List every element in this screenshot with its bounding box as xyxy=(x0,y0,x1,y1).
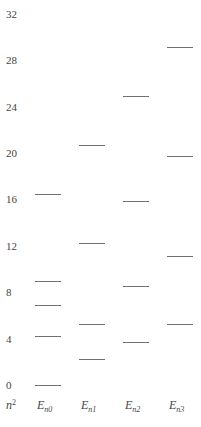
energy-level-line xyxy=(167,47,193,48)
y-tick-label: 4 xyxy=(6,333,28,345)
column-label-n3: En3 xyxy=(169,398,184,414)
energy-level-line xyxy=(167,156,193,157)
y-tick-label: 16 xyxy=(6,193,28,205)
y-tick-label: 0 xyxy=(6,379,28,391)
energy-level-line xyxy=(35,385,61,386)
energy-level-line xyxy=(167,256,193,257)
energy-level-line xyxy=(123,286,149,287)
y-axis-label: n2 xyxy=(6,398,16,413)
energy-level-line xyxy=(79,324,105,325)
energy-level-line xyxy=(167,324,193,325)
column-label-n1: En1 xyxy=(81,398,96,414)
energy-level-line xyxy=(79,243,105,244)
y-tick-label: 20 xyxy=(6,147,28,159)
energy-level-line xyxy=(35,336,61,337)
energy-level-line xyxy=(123,96,149,97)
energy-level-line xyxy=(35,305,61,306)
energy-level-line xyxy=(79,145,105,146)
energy-level-line xyxy=(123,201,149,202)
energy-level-diagram: 048121620242832n2En0En1En2En3 xyxy=(0,0,201,427)
energy-level-line xyxy=(123,342,149,343)
y-tick-label: 32 xyxy=(6,8,28,20)
y-tick-label: 12 xyxy=(6,240,28,252)
energy-level-line xyxy=(35,281,61,282)
column-label-n0: En0 xyxy=(37,398,52,414)
y-tick-label: 28 xyxy=(6,54,28,66)
energy-level-line xyxy=(35,194,61,195)
column-label-n2: En2 xyxy=(125,398,140,414)
y-tick-label: 24 xyxy=(6,101,28,113)
y-tick-label: 8 xyxy=(6,286,28,298)
energy-level-line xyxy=(79,359,105,360)
